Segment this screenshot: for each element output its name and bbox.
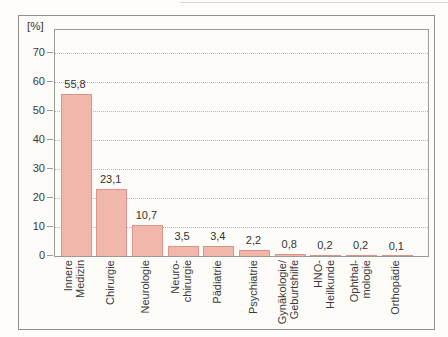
x-category-label-1: Chirurgie	[104, 260, 117, 330]
bar-5	[239, 250, 270, 256]
gridline-30	[55, 169, 428, 170]
bar-value-label-1: 23,1	[89, 172, 133, 186]
x-category-label-6: Gynäkologie/ Geburtshilfe	[277, 260, 301, 330]
figure: [%] 01020304050607055,823,110,73,53,42,2…	[0, 0, 448, 337]
y-tick-label-10: 10	[19, 219, 45, 233]
y-tick-mark-10	[47, 226, 53, 227]
gridline-60	[55, 82, 428, 83]
y-tick-mark-20	[47, 197, 53, 198]
bar-2	[132, 225, 163, 256]
bar-1	[96, 189, 127, 256]
gridline-40	[55, 140, 428, 141]
bar-3	[168, 246, 199, 256]
y-tick-label-0: 0	[19, 248, 45, 262]
bar-9	[382, 255, 413, 257]
x-category-label-4: Pädiatrie	[212, 260, 225, 330]
x-category-label-0: Innere Medizin	[63, 260, 87, 330]
y-tick-mark-40	[47, 139, 53, 140]
x-category-label-3: Neuro- chirurgie	[170, 260, 194, 330]
page-top-rule	[180, 2, 448, 3]
bar-value-label-2: 10,7	[124, 208, 168, 222]
y-axis-unit-label: [%]	[27, 20, 44, 32]
bar-0	[61, 94, 92, 256]
bar-6	[275, 254, 306, 256]
y-tick-label-20: 20	[19, 190, 45, 204]
bar-7	[310, 255, 341, 257]
bar-8	[346, 255, 377, 257]
x-category-label-8: Ophthal- mologie	[349, 260, 373, 330]
y-tick-label-30: 30	[19, 161, 45, 175]
y-tick-label-50: 50	[19, 103, 45, 117]
gridline-50	[55, 111, 428, 112]
y-tick-mark-50	[47, 110, 53, 111]
bar-value-label-0: 55,8	[53, 77, 97, 91]
plot-area	[54, 29, 429, 257]
x-category-label-5: Psychiatrie	[247, 260, 260, 330]
gridline-70	[55, 53, 428, 54]
y-tick-label-60: 60	[19, 74, 45, 88]
x-category-label-7: HNO- Heilkunde	[313, 260, 337, 330]
x-category-label-2: Neurologie	[140, 260, 153, 330]
figure-frame: [%] 01020304050607055,823,110,73,53,42,2…	[18, 15, 435, 330]
bar-value-label-9: 0,1	[374, 239, 418, 253]
x-category-label-9: Orthopädie	[390, 260, 403, 330]
y-tick-mark-30	[47, 168, 53, 169]
y-tick-mark-70	[47, 52, 53, 53]
y-tick-mark-0	[47, 255, 53, 256]
y-tick-label-40: 40	[19, 132, 45, 146]
bar-4	[203, 246, 234, 256]
y-tick-label-70: 70	[19, 45, 45, 59]
